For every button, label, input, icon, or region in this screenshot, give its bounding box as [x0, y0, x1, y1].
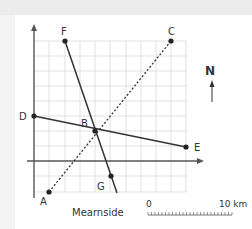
point-b	[92, 128, 97, 133]
label-a: A	[40, 196, 47, 207]
point-g	[108, 173, 113, 178]
label-b: B	[81, 118, 88, 129]
label-f: F	[61, 26, 67, 37]
map-grid-diagram: F C D B E G A N Mearnside 0 10 km	[0, 0, 252, 229]
point-c	[168, 38, 173, 43]
scale-end-label: 10 km	[219, 199, 247, 209]
north-arrow: N	[205, 64, 215, 102]
y-axis	[31, 24, 37, 198]
label-g: G	[97, 181, 105, 192]
label-e: E	[194, 142, 200, 153]
scale-bar: 0 10 km	[146, 199, 247, 215]
scale-start-label: 0	[146, 199, 152, 209]
point-f	[62, 38, 67, 43]
point-e	[183, 144, 188, 149]
point-d	[31, 113, 36, 118]
north-label: N	[205, 64, 215, 78]
label-c: C	[168, 26, 175, 37]
point-a	[46, 189, 51, 194]
north-arrow-icon	[210, 80, 215, 87]
label-d: D	[19, 111, 27, 122]
x-axis	[27, 158, 204, 164]
place-label: Mearnside	[72, 207, 124, 218]
